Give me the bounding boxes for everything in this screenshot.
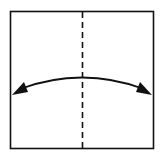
- origami-diagram: [0, 0, 164, 158]
